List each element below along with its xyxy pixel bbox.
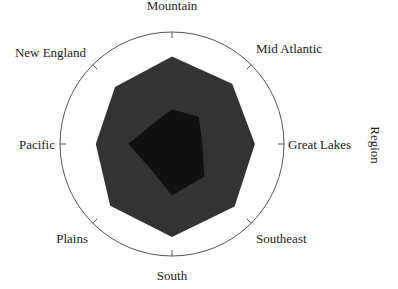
axis-tick (93, 65, 97, 69)
category-label: Mid Atlantic (256, 41, 322, 56)
axis-tick (247, 219, 251, 223)
radar-chart: MountainMid AtlanticGreat LakesSoutheast… (0, 0, 398, 289)
category-label: Pacific (19, 137, 55, 152)
axis-tick (93, 219, 97, 223)
axis-label-region: Region (368, 126, 383, 164)
category-label: South (157, 268, 188, 283)
axis-tick (247, 65, 251, 69)
radar-series (96, 57, 255, 237)
category-label: Southeast (256, 231, 307, 246)
category-label: New England (15, 45, 87, 60)
category-label: Plains (56, 231, 88, 246)
category-label: Mountain (147, 0, 198, 13)
category-label: Great Lakes (288, 137, 351, 152)
